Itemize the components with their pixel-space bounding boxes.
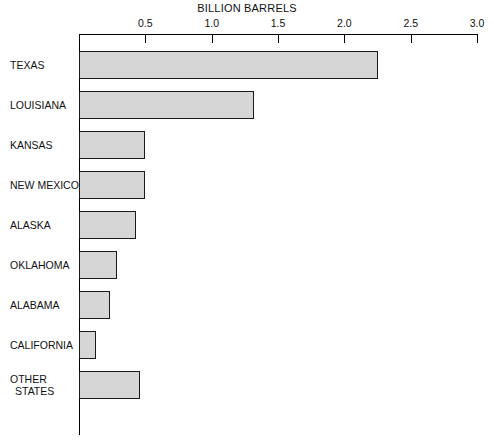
bar-row [0, 371, 494, 399]
category-label: ALABAMA [10, 299, 60, 311]
x-tick-label: 2.0 [324, 17, 364, 29]
category-label: CALIFORNIA [10, 339, 73, 351]
category-label-line2: STATES [10, 385, 54, 397]
category-label: LOUISIANA [10, 99, 66, 111]
bar [79, 251, 117, 279]
chart-title: BILLION BARRELS [0, 2, 494, 14]
x-tick-label: 3.0 [457, 17, 494, 29]
category-label: KANSAS [10, 139, 53, 151]
x-tick [344, 34, 345, 43]
bar-chart: BILLION BARRELS 0.51.01.52.02.53.0 TEXAS… [0, 0, 494, 443]
bar [79, 171, 145, 199]
category-label: OTHERSTATES [10, 373, 54, 397]
category-label: NEW MEXICO [10, 179, 79, 191]
bar [79, 211, 136, 239]
x-tick [278, 34, 279, 43]
bar [79, 91, 254, 119]
x-tick-label: 2.5 [391, 17, 431, 29]
category-label: ALASKA [10, 219, 51, 231]
x-tick [477, 34, 478, 43]
bar-row [0, 131, 494, 159]
bar-row [0, 51, 494, 79]
bar-row [0, 251, 494, 279]
bar-row [0, 291, 494, 319]
category-label: TEXAS [10, 59, 44, 71]
x-tick [145, 34, 146, 43]
x-tick [411, 34, 412, 43]
x-tick-label: 1.0 [192, 17, 232, 29]
bar-row [0, 331, 494, 359]
bar-row [0, 211, 494, 239]
x-tick [212, 34, 213, 43]
x-tick-label: 1.5 [258, 17, 298, 29]
bar [79, 291, 110, 319]
bar [79, 331, 96, 359]
bar-row [0, 91, 494, 119]
x-tick-label: 0.5 [125, 17, 165, 29]
category-label: OKLAHOMA [10, 259, 70, 271]
bar [79, 371, 140, 399]
bar [79, 131, 145, 159]
bar [79, 51, 378, 79]
